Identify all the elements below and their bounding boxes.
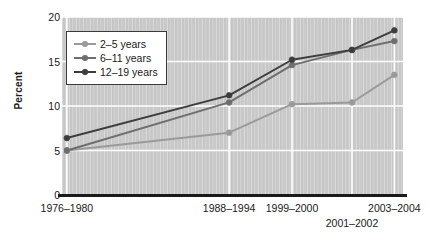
x-axis-tick-label: 2003–2004 xyxy=(368,203,421,214)
legend-item: 2–5 years xyxy=(73,37,158,51)
x-axis-tick-label: 1999–2000 xyxy=(266,203,319,214)
line-marker-icon xyxy=(73,38,97,50)
chart-legend: 2–5 years6–11 years12–19 years xyxy=(66,31,167,85)
line-chart: Percent 05101520 1976–19801988–19941999–… xyxy=(0,0,434,244)
legend-item-label: 12–19 years xyxy=(100,67,158,78)
x-axis-tick-label: 1988–1994 xyxy=(203,203,256,214)
legend-item: 6–11 years xyxy=(73,51,158,65)
line-marker-icon xyxy=(73,52,97,64)
x-axis-tick-label: 2001–2002 xyxy=(326,218,379,229)
legend-item-label: 6–11 years xyxy=(100,53,151,64)
x-axis-tick-label: 1976–1980 xyxy=(41,203,94,214)
legend-item: 12–19 years xyxy=(73,65,158,79)
line-marker-icon xyxy=(73,66,97,78)
legend-item-label: 2–5 years xyxy=(100,39,146,50)
